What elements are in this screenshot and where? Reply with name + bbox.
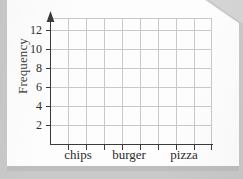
y-tick-label-12: 12: [22, 24, 42, 36]
bar-chart-blank-grid: Frequency 12 10 8 6 4 2 chips burger piz…: [0, 0, 243, 179]
y-tick-label-2: 2: [22, 119, 42, 131]
x-tick-label-chips: chips: [57, 147, 99, 163]
y-axis-tick-labels: 12 10 8 6 4 2: [20, 0, 42, 179]
y-tick-label-4: 4: [22, 100, 42, 112]
y-tick-label-10: 10: [22, 43, 42, 55]
y-tick-label-8: 8: [22, 62, 42, 74]
x-tick-label-pizza: pizza: [162, 147, 206, 163]
x-tick-label-burger: burger: [104, 147, 154, 163]
y-axis-arrow-icon: [47, 11, 55, 22]
y-tick-label-6: 6: [22, 81, 42, 93]
figure-screenshot: Frequency 12 10 8 6 4 2 chips burger piz…: [0, 0, 243, 179]
horizontal-gridlines: [50, 31, 212, 126]
